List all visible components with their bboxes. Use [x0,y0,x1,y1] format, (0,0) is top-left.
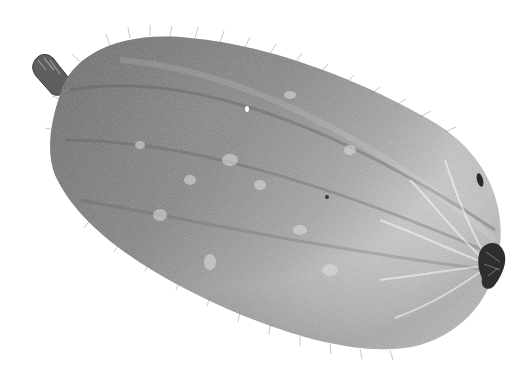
winter-melon-illustration [0,0,532,377]
blossom-end [478,243,505,289]
highlight-spot [245,106,249,112]
photo-scene: Grayscale photograph of a hairy winter m… [0,0,532,377]
